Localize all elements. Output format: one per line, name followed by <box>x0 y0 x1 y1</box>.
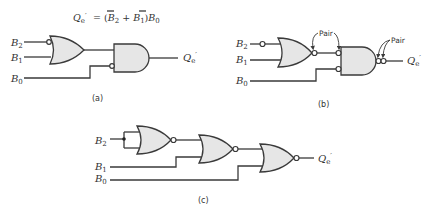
input-label-b2: B2 <box>94 135 107 148</box>
inversion-bubble <box>312 51 317 56</box>
inversion-bubble <box>110 64 115 69</box>
and-gate-b <box>341 47 376 75</box>
and-gate-a <box>114 44 149 72</box>
caption-c: (c) <box>198 196 209 205</box>
inversion-bubble <box>376 59 381 64</box>
input-label-b2: B2 <box>235 38 248 51</box>
inversion-bubble <box>294 156 299 161</box>
output-label-b: Qe′ <box>407 54 421 68</box>
inversion-bubble <box>336 51 341 56</box>
pair-annotation-1: Pair <box>319 29 334 38</box>
input-label-b1: B1 <box>235 54 248 67</box>
inversion-bubble <box>47 40 52 45</box>
svg-text:= (B2 + B1)B0: = (B2 + B1)B0 <box>93 12 160 25</box>
svg-text:Qe′: Qe′ <box>73 12 87 25</box>
logic-diagram-figure: Qe′ = (B2 + B1)B0 B2 B1 B0 Qe′ (a) B2 B1… <box>0 0 423 211</box>
input-label-b0: B0 <box>10 73 23 86</box>
output-label-c: Qe′ <box>318 152 332 166</box>
panel-b: B2 B1 B0 Pair Pair Qe′ (b) <box>235 29 421 109</box>
or-gate-a <box>50 36 84 64</box>
caption-a: (a) <box>92 94 103 103</box>
output-label-a: Qe′ <box>183 51 197 65</box>
inversion-bubble <box>260 42 265 47</box>
equation-a: Qe′ = (B2 + B1)B0 <box>73 11 160 25</box>
input-label-b0: B0 <box>94 173 107 186</box>
caption-b: (b) <box>318 100 329 109</box>
panel-a: Qe′ = (B2 + B1)B0 B2 B1 B0 Qe′ (a) <box>10 11 197 103</box>
inversion-bubble <box>233 147 238 152</box>
input-label-b1: B1 <box>10 52 23 65</box>
nor-gate-2 <box>199 135 233 163</box>
nor-gate-1 <box>137 126 171 154</box>
junction-dot <box>122 137 126 141</box>
input-label-b0: B0 <box>235 75 248 88</box>
inversion-bubble <box>336 67 341 72</box>
input-label-b2: B2 <box>10 37 23 50</box>
pair-annotation-2: Pair <box>391 36 406 45</box>
nor-gate-3 <box>260 144 294 172</box>
inversion-bubble <box>381 59 386 64</box>
inversion-bubble <box>171 138 176 143</box>
panel-c: B2 B1 B0 Qe′ (c) <box>94 126 332 205</box>
or-gate-b <box>278 38 312 67</box>
